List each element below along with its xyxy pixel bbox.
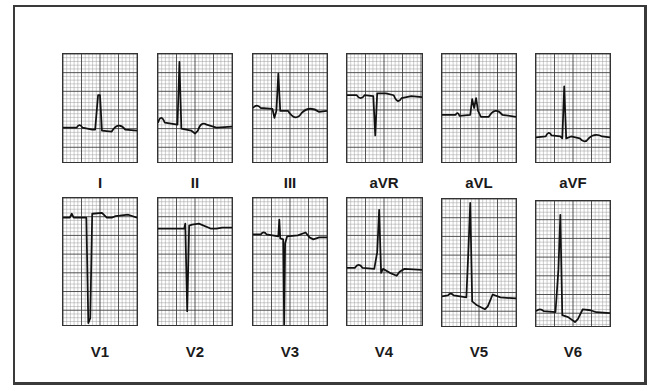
ecg-grid: [347, 54, 422, 162]
lead-label-avf: aVF: [535, 174, 611, 191]
ecg-strip-avl: [441, 53, 517, 163]
lead-label-iii: III: [252, 174, 328, 191]
lead-label-v3: V3: [252, 343, 328, 360]
lead-label-ii: II: [157, 174, 233, 191]
lead-label-v6: V6: [535, 343, 611, 360]
ecg-grid: [536, 201, 610, 326]
lead-label-v5: V5: [441, 343, 517, 360]
ecg-grid: [253, 54, 327, 162]
ecg-grid: [158, 198, 232, 325]
ecg-strip-v1: [62, 197, 138, 326]
lead-label-v1: V1: [62, 343, 138, 360]
ecg-strip-v6: [535, 200, 611, 327]
ecg-grid: [347, 198, 422, 325]
ecg-strip-v2: [157, 197, 233, 326]
lead-label-avl: aVL: [441, 174, 517, 191]
ecg-strip-v3: [252, 197, 328, 326]
lead-label-avr: aVR: [346, 174, 422, 191]
ecg-grid: [253, 198, 327, 325]
ecg-grid: [442, 54, 516, 162]
ecg-grid: [63, 198, 137, 325]
ecg-grid: [536, 54, 610, 162]
ecg-strip-i: [62, 53, 138, 163]
lead-label-v4: V4: [346, 343, 422, 360]
ecg-strip-avf: [535, 53, 611, 163]
lead-label-i: I: [62, 174, 138, 191]
lead-label-v2: V2: [157, 343, 233, 360]
ecg-strip-v5: [441, 198, 517, 327]
ecg-strip-ii: [157, 53, 233, 163]
ecg-grid: [442, 199, 516, 326]
ecg-grid: [158, 54, 232, 162]
ecg-strip-avr: [346, 53, 423, 163]
ecg-grid: [63, 54, 137, 162]
ecg-strip-iii: [252, 53, 328, 163]
ecg-strip-v4: [346, 197, 423, 326]
